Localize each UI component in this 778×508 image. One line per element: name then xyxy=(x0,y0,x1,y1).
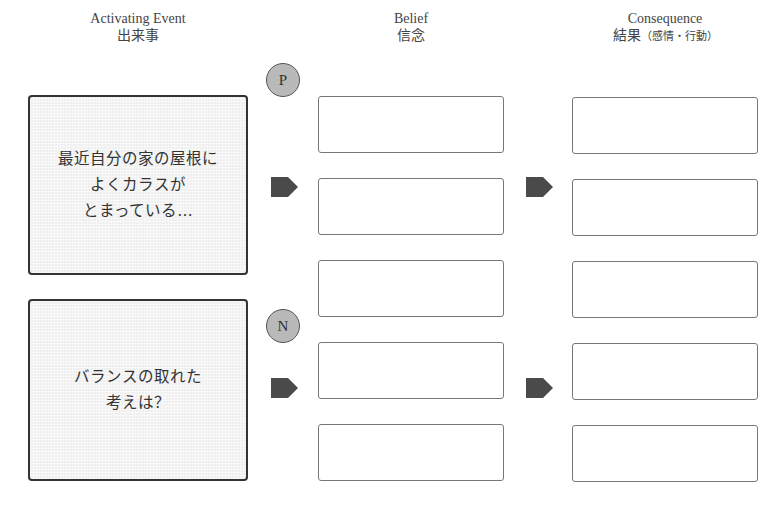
positive-marker: P xyxy=(266,63,300,97)
event-line: とまっている… xyxy=(58,198,218,224)
belief-box[interactable] xyxy=(318,424,504,481)
header-belief-en: Belief xyxy=(318,10,504,27)
belief-box[interactable] xyxy=(318,178,504,235)
header-belief-jp: 信念 xyxy=(318,27,504,44)
arrow-right-icon xyxy=(526,174,554,200)
activating-event-box: 最近自分の家の屋根に よくカラスが とまっている… xyxy=(28,95,248,275)
header-activating-event-en: Activating Event xyxy=(28,10,248,27)
balanced-thought-box: バランスの取れた 考えは？ xyxy=(28,299,248,481)
header-consequence-jp: 結果（感情・行動） xyxy=(560,27,770,45)
header-activating-event: Activating Event 出来事 xyxy=(28,10,248,44)
arrow-right-icon xyxy=(526,375,554,401)
header-consequence-jp-main: 結果 xyxy=(613,28,641,43)
arrow-right-icon xyxy=(271,174,299,200)
header-consequence: Consequence 結果（感情・行動） xyxy=(560,10,770,45)
belief-box[interactable] xyxy=(318,96,504,153)
header-belief: Belief 信念 xyxy=(318,10,504,44)
event-line: よくカラスが xyxy=(58,172,218,198)
header-activating-event-jp: 出来事 xyxy=(28,27,248,44)
header-consequence-jp-sub: （感情・行動） xyxy=(641,30,718,42)
arrow-right-icon xyxy=(271,375,299,401)
event-line: 最近自分の家の屋根に xyxy=(58,146,218,172)
header-consequence-en: Consequence xyxy=(560,10,770,27)
event-line: 考えは？ xyxy=(74,390,202,416)
consequence-box[interactable] xyxy=(572,425,758,482)
consequence-box[interactable] xyxy=(572,261,758,318)
consequence-box[interactable] xyxy=(572,179,758,236)
belief-box[interactable] xyxy=(318,342,504,399)
event-line: バランスの取れた xyxy=(74,364,202,390)
negative-marker: N xyxy=(266,309,300,343)
belief-box[interactable] xyxy=(318,260,504,317)
consequence-box[interactable] xyxy=(572,97,758,154)
consequence-box[interactable] xyxy=(572,343,758,400)
